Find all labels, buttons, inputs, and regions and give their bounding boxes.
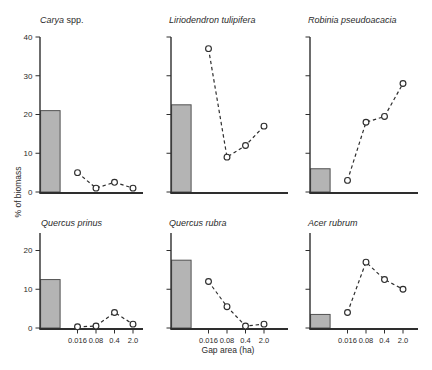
gap-series-line: [209, 49, 265, 158]
chart-panel-robinia: [284, 30, 426, 196]
data-point-marker: [112, 310, 118, 316]
biomass-bar: [311, 169, 331, 192]
data-point-marker: [345, 310, 351, 316]
biomass-bar: [172, 260, 192, 328]
species-name: Robinia pseudoacacia: [308, 15, 397, 25]
biomass-bar: [41, 280, 61, 328]
x-tick-label: 0.016: [199, 336, 218, 345]
y-tick-label: 20: [24, 246, 33, 255]
data-point-marker: [75, 324, 81, 330]
x-tick-label: 0.4: [109, 336, 119, 345]
gap-series-line: [348, 262, 404, 312]
x-tick-label: 2.0: [398, 336, 408, 345]
x-tick-label: 0.4: [379, 336, 389, 345]
y-tick-label: 40: [24, 33, 33, 42]
gap-series-line: [78, 313, 134, 327]
biomass-bar: [172, 105, 192, 192]
x-tick-label: 0.08: [89, 336, 104, 345]
data-point-marker: [261, 123, 267, 129]
chart-panel-quercus-rubra: 0.0160.080.42.0: [145, 228, 296, 370]
y-tick-label: 20: [24, 110, 33, 119]
x-tick-label: 0.016: [338, 336, 357, 345]
x-tick-label: 2.0: [259, 336, 269, 345]
species-name: Quercus rubra: [169, 218, 227, 228]
data-point-marker: [345, 177, 351, 183]
figure: % of biomass Gap area (ha) Carya spp. Li…: [0, 0, 432, 370]
data-point-marker: [243, 143, 249, 149]
y-tick-label: 0: [28, 188, 33, 197]
data-point-marker: [363, 119, 369, 125]
x-tick-label: 0.08: [220, 336, 235, 345]
chart-panel-carya: 010203040: [14, 30, 151, 196]
gap-series-line: [78, 173, 134, 189]
data-point-marker: [400, 286, 406, 292]
panel-title-quercus-prinus: Quercus prinus: [41, 218, 102, 228]
data-point-marker: [93, 185, 99, 191]
species-suffix: spp.: [64, 15, 84, 25]
gap-series-line: [209, 282, 265, 327]
panel-title-liriodendron: Liriodendron tulipifera: [169, 15, 256, 25]
data-point-marker: [206, 279, 212, 285]
x-tick-label: 0.08: [359, 336, 374, 345]
biomass-bar: [311, 314, 331, 328]
data-point-marker: [130, 321, 136, 327]
x-tick-label: 2.0: [128, 336, 138, 345]
chart-panel-acer: 0.0160.080.42.0: [284, 228, 426, 370]
data-point-marker: [400, 81, 406, 87]
y-tick-label: 10: [24, 149, 33, 158]
data-point-marker: [363, 259, 369, 265]
data-point-marker: [130, 185, 136, 191]
y-tick-label: 30: [24, 72, 33, 81]
data-point-marker: [382, 114, 388, 120]
panel-title-quercus-rubra: Quercus rubra: [169, 218, 227, 228]
panel-title-acer: Acer rubrum: [308, 218, 358, 228]
x-tick-label: 0.016: [68, 336, 87, 345]
data-point-marker: [93, 323, 99, 329]
panel-title-robinia: Robinia pseudoacacia: [308, 15, 397, 25]
gap-series-line: [348, 84, 404, 181]
panel-title-carya: Carya spp.: [40, 15, 84, 25]
data-point-marker: [206, 46, 212, 52]
data-point-marker: [75, 170, 81, 176]
species-name: Liriodendron tulipifera: [169, 15, 256, 25]
chart-panel-quercus-prinus: 010200.0160.080.42.0: [14, 228, 151, 370]
data-point-marker: [261, 321, 267, 327]
y-tick-label: 10: [24, 285, 33, 294]
data-point-marker: [243, 323, 249, 329]
chart-panel-liriodendron: [145, 30, 296, 196]
species-name: Acer rubrum: [308, 218, 358, 228]
y-tick-label: 0: [28, 324, 33, 333]
species-name: Quercus prinus: [41, 218, 102, 228]
species-name: Carya: [40, 15, 64, 25]
data-point-marker: [112, 179, 118, 185]
x-tick-label: 0.4: [240, 336, 250, 345]
biomass-bar: [41, 111, 61, 192]
data-point-marker: [224, 304, 230, 310]
data-point-marker: [224, 154, 230, 160]
data-point-marker: [382, 277, 388, 283]
